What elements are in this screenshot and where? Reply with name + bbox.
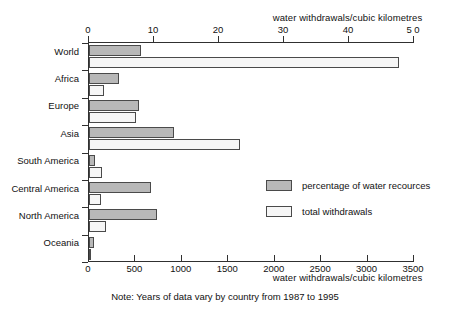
- bottom-axis-tick-label: 500: [126, 263, 142, 274]
- bar-total-north-america: [89, 221, 106, 232]
- category-axis-tick: [82, 98, 88, 99]
- bar-percentage-asia: [89, 127, 174, 138]
- category-axis-ticks: [82, 43, 88, 262]
- category-axis-tick: [82, 235, 88, 236]
- category-label-asia: Asia: [61, 127, 79, 138]
- top-axis-tick-label: 30: [278, 24, 289, 35]
- legend-label-percentage: percentage of water recources: [302, 180, 430, 191]
- bar-percentage-central-america: [89, 182, 151, 193]
- bar-percentage-world: [89, 45, 141, 56]
- bar-total-central-america: [89, 194, 101, 205]
- bottom-axis-tick: [227, 255, 228, 262]
- bar-percentage-europe: [89, 100, 139, 111]
- bottom-axis-tick: [320, 255, 321, 262]
- bar-percentage-north-america: [89, 209, 157, 220]
- category-axis-tick: [82, 153, 88, 154]
- bar-percentage-africa: [89, 73, 119, 84]
- category-label-south-america: South America: [17, 155, 79, 166]
- category-label-oceania: Oceania: [44, 237, 79, 248]
- bar-total-asia: [89, 139, 240, 150]
- top-axis-tick-labels: 0102030405 0: [88, 24, 414, 36]
- category-label-central-america: Central America: [11, 182, 79, 193]
- category-label-africa: Africa: [55, 73, 79, 84]
- top-axis-title: water withdrawals/cubic kilometres: [245, 12, 450, 23]
- bottom-axis-tick: [274, 255, 275, 262]
- legend-swatch-percentage-icon: [266, 180, 292, 191]
- chart-note: Note: Years of data vary by country from…: [0, 291, 450, 302]
- legend-item-percentage: percentage of water recources: [266, 176, 446, 194]
- bottom-axis-title: water withdrawals/cubic kilometres: [245, 272, 450, 283]
- category-label-europe: Europe: [48, 100, 79, 111]
- top-axis-tick-label: 10: [148, 24, 159, 35]
- category-axis-tick: [82, 180, 88, 181]
- category-axis-tick: [82, 207, 88, 208]
- legend-swatch-total-icon: [266, 206, 292, 217]
- bottom-axis-tick: [134, 255, 135, 262]
- water-withdrawals-bar-chart: water withdrawals/cubic kilometres 01020…: [0, 0, 450, 319]
- bottom-axis-ticks: [88, 255, 414, 262]
- top-axis-tick-label: 5 0: [406, 24, 419, 35]
- bar-total-south-america: [89, 167, 102, 178]
- bottom-axis-tick: [413, 255, 414, 262]
- bars-layer: [89, 43, 413, 262]
- legend-label-total: total withdrawals: [302, 206, 372, 217]
- top-axis-tick-label: 20: [213, 24, 224, 35]
- top-axis-tick-label: 40: [343, 24, 354, 35]
- bottom-axis-tick-label: 0: [85, 263, 90, 274]
- bar-total-world: [89, 57, 399, 68]
- bar-total-europe: [89, 112, 136, 123]
- bottom-axis-tick-label: 1500: [217, 263, 238, 274]
- chart-legend: percentage of water recources total with…: [266, 176, 446, 228]
- legend-item-total: total withdrawals: [266, 202, 446, 220]
- category-axis-tick: [82, 125, 88, 126]
- bottom-axis-tick: [367, 255, 368, 262]
- category-axis-tick: [82, 43, 88, 44]
- category-label-world: World: [54, 45, 79, 56]
- top-axis-tick-label: 0: [85, 24, 90, 35]
- bottom-axis-tick: [181, 255, 182, 262]
- bar-percentage-south-america: [89, 155, 95, 166]
- bar-percentage-oceania: [89, 237, 94, 248]
- bottom-axis-tick-label: 1000: [170, 263, 191, 274]
- category-label-north-america: North America: [19, 209, 79, 220]
- bar-total-africa: [89, 85, 104, 96]
- bottom-axis-tick: [88, 255, 89, 262]
- category-axis-tick: [82, 70, 88, 71]
- category-axis-labels: WorldAfricaEuropeAsiaSouth AmericaCentra…: [0, 43, 79, 262]
